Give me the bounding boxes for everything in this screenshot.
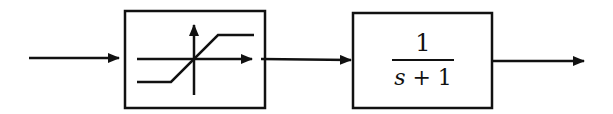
denominator: s + 1 [394, 65, 452, 91]
transfer-function-expression: 1 s + 1 [353, 13, 493, 108]
fraction-bar [392, 59, 454, 61]
saturation-icon [137, 25, 254, 95]
numerator: 1 [415, 30, 430, 56]
connector-arrow [261, 59, 351, 60]
denominator-constant: 1 [438, 65, 452, 90]
block-diagram [0, 0, 613, 114]
denominator-operator: + [412, 65, 430, 90]
denominator-variable: s [394, 65, 405, 90]
saturation-block [125, 11, 265, 108]
